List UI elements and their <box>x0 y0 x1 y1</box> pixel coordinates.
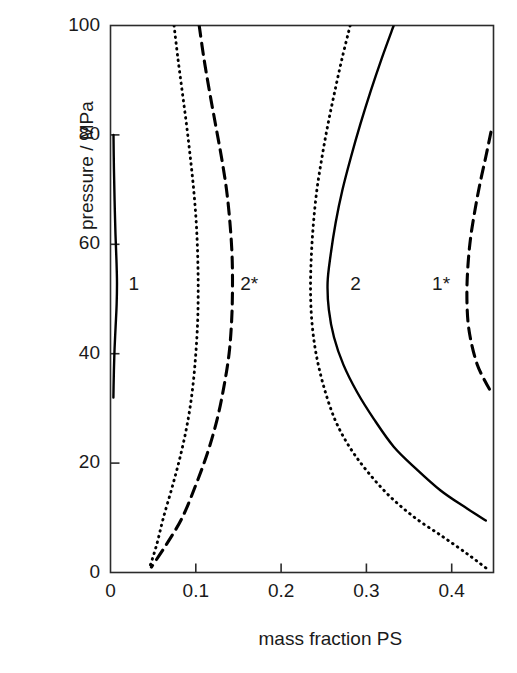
curve-annotation: 2* <box>240 273 258 295</box>
y-tick-label: 80 <box>40 123 100 145</box>
curve-2-outer-dotted <box>311 26 488 570</box>
x-tick-label: 0.1 <box>166 580 226 602</box>
curve-2*-inner-dotted <box>150 26 198 568</box>
curve-1 <box>113 135 117 398</box>
curve-annotation: 2 <box>350 273 361 295</box>
x-tick-label: 0 <box>81 580 141 602</box>
curve-annotation: 1* <box>432 273 450 295</box>
x-tick-label: 0.4 <box>422 580 482 602</box>
y-axis-title: pressure / MPa <box>76 101 98 230</box>
curve-1* <box>467 132 493 395</box>
figure-container: pressure / MPa mass fraction PS 00.10.20… <box>0 0 517 673</box>
y-tick-label: 100 <box>40 14 100 36</box>
y-tick-label: 40 <box>40 342 100 364</box>
x-tick-label: 0.3 <box>336 580 396 602</box>
y-tick-label: 20 <box>40 451 100 473</box>
curve-annotation: 1 <box>128 273 139 295</box>
x-tick-label: 0.2 <box>251 580 311 602</box>
y-tick-label: 0 <box>40 561 100 583</box>
x-axis-title: mass fraction PS <box>259 628 403 650</box>
plot-frame <box>111 26 494 573</box>
curve-2* <box>151 26 232 568</box>
y-tick-label: 60 <box>40 232 100 254</box>
curves-group <box>113 26 492 570</box>
